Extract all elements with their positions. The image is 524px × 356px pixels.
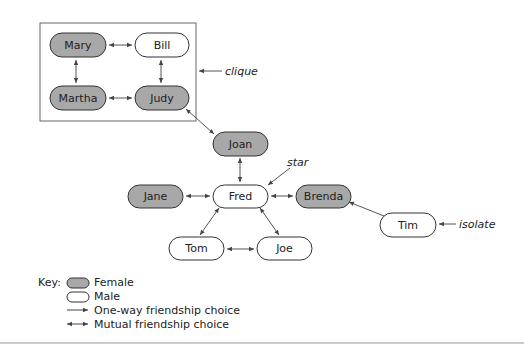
- node-bill: Bill: [135, 33, 189, 57]
- node-mary: Mary: [50, 33, 106, 57]
- node-label: Fred: [229, 190, 253, 203]
- legend: Key: Female Male One-way friendship choi…: [38, 276, 240, 331]
- node-fred: Fred: [213, 185, 268, 208]
- node-label: Bill: [154, 39, 171, 52]
- node-joe: Joe: [257, 237, 312, 260]
- node-label: Judy: [149, 92, 174, 105]
- legend-title: Key:: [38, 276, 61, 289]
- node-label: Brenda: [304, 190, 343, 203]
- legend-one-way: One-way friendship choice: [94, 304, 240, 317]
- legend-mutual: Mutual friendship choice: [94, 318, 229, 331]
- clique-label: clique: [225, 65, 258, 78]
- node-jane: Jane: [128, 185, 183, 208]
- node-joan: Joan: [213, 132, 268, 156]
- edge-tim-brenda: [349, 202, 384, 216]
- sociogram-diagram: Mary Bill Martha Judy Joan Jane Fred Bre…: [0, 0, 524, 356]
- female-swatch-icon: [67, 278, 89, 288]
- node-label: Joe: [275, 242, 293, 255]
- node-label: Mary: [64, 39, 92, 52]
- node-label: Martha: [59, 92, 98, 105]
- node-judy: Judy: [135, 86, 189, 110]
- node-tim: Tim: [380, 213, 436, 237]
- node-martha: Martha: [50, 86, 106, 110]
- node-label: Tim: [397, 219, 418, 232]
- node-brenda: Brenda: [296, 185, 351, 208]
- legend-female: Female: [94, 276, 134, 289]
- node-label: Tom: [184, 242, 207, 255]
- node-tom: Tom: [169, 237, 224, 260]
- edge-fred-tom: [200, 208, 219, 235]
- legend-male: Male: [94, 290, 120, 303]
- node-label: Joan: [228, 138, 253, 151]
- node-label: Jane: [143, 190, 168, 203]
- male-swatch-icon: [67, 292, 89, 302]
- star-pointer-arrow: [268, 168, 290, 185]
- star-label: star: [287, 156, 310, 169]
- edge-fred-joe: [260, 208, 279, 235]
- isolate-label: isolate: [459, 218, 496, 231]
